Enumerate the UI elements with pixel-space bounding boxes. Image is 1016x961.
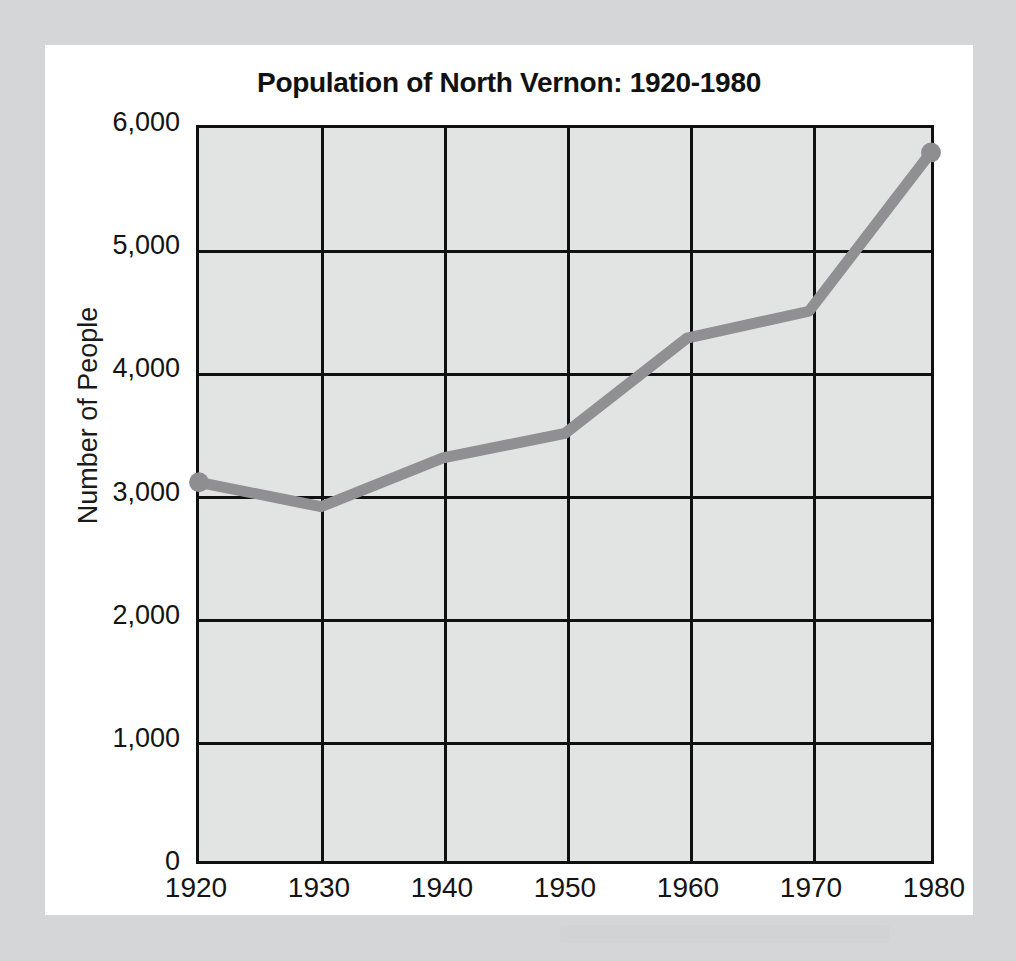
x-tick-label: 1970 bbox=[741, 872, 881, 904]
population-markers bbox=[189, 143, 941, 493]
x-tick-label: 1960 bbox=[618, 872, 758, 904]
data-point-marker bbox=[189, 472, 209, 492]
chart-title: Population of North Vernon: 1920-1980 bbox=[45, 67, 973, 99]
chart-card: Population of North Vernon: 1920-1980 Nu… bbox=[45, 45, 973, 915]
y-tick-label: 3,000 bbox=[50, 477, 180, 508]
paper-texture-4 bbox=[560, 925, 890, 943]
plot-area bbox=[196, 125, 934, 864]
x-tick-label: 1980 bbox=[864, 872, 1004, 904]
page-root: Population of North Vernon: 1920-1980 Nu… bbox=[0, 0, 1016, 961]
y-tick-label: 1,000 bbox=[50, 723, 180, 754]
x-tick-label: 1930 bbox=[249, 872, 389, 904]
line-series bbox=[199, 128, 931, 861]
y-tick-label: 6,000 bbox=[50, 107, 180, 138]
y-tick-label: 4,000 bbox=[50, 353, 180, 384]
x-tick-label: 1920 bbox=[126, 872, 266, 904]
x-tick-label: 1940 bbox=[372, 872, 512, 904]
data-point-marker bbox=[921, 143, 941, 163]
population-line bbox=[199, 152, 931, 506]
y-tick-label: 2,000 bbox=[50, 600, 180, 631]
x-tick-label: 1950 bbox=[495, 872, 635, 904]
y-tick-label: 5,000 bbox=[50, 230, 180, 261]
y-axis-title: Number of People bbox=[73, 266, 104, 566]
